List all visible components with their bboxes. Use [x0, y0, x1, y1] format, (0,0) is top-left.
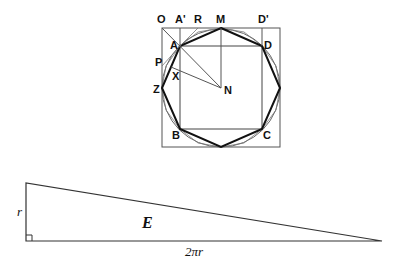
label-o: O: [157, 13, 166, 25]
label-r: R: [194, 13, 202, 25]
line-ar: [180, 28, 198, 46]
label-z: Z: [153, 83, 160, 95]
label-p: P: [155, 56, 162, 68]
label-d: D: [264, 39, 272, 51]
label-c: C: [263, 129, 271, 141]
label-a: A: [170, 39, 178, 51]
label-area-e: E: [141, 214, 153, 231]
label-two-pi-r: 2πr: [185, 244, 204, 259]
label-a-prime: A': [175, 13, 186, 25]
label-m: M: [216, 13, 225, 25]
right-triangle: [26, 183, 382, 241]
label-r-side: r: [17, 204, 23, 219]
label-d-prime: D': [258, 13, 269, 25]
diagram-canvas: O A' R M D' A D P X Z N B C r E 2πr: [0, 0, 398, 268]
label-x: X: [172, 70, 180, 82]
label-n: N: [224, 84, 232, 96]
label-b: B: [172, 129, 180, 141]
right-angle-marker: [26, 235, 32, 241]
